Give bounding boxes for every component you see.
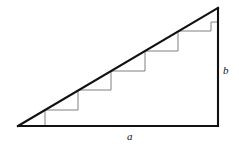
figure-container: a b — [0, 0, 239, 147]
triangle-group — [18, 8, 218, 126]
staircase-polyline — [45, 22, 218, 126]
triangle-hypotenuse — [18, 8, 218, 126]
label-side-b: b — [223, 65, 229, 76]
label-side-a: a — [127, 131, 133, 142]
triangle-staircase-diagram — [0, 0, 239, 147]
staircase-group — [45, 22, 218, 126]
